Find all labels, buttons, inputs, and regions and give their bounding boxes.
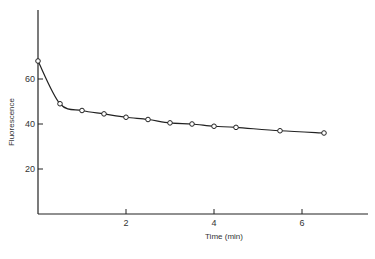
- y-tick-label: 60: [25, 74, 35, 84]
- data-point-marker: [146, 117, 151, 122]
- data-point-marker: [322, 131, 327, 136]
- fluorescence-chart: 204060 246 Fluorescence Time (min): [0, 0, 375, 259]
- x-tick-label: 4: [211, 218, 216, 228]
- data-point-marker: [102, 112, 107, 117]
- data-point-marker: [278, 128, 283, 133]
- data-point-marker: [58, 101, 63, 106]
- y-tick-label: 20: [25, 164, 35, 174]
- data-point-marker: [168, 121, 173, 126]
- y-axis-title: Fluorescence: [7, 97, 16, 146]
- data-point-marker: [212, 124, 217, 129]
- x-tick-label: 6: [299, 218, 304, 228]
- x-axis-title: Time (min): [205, 232, 243, 241]
- data-point-marker: [36, 59, 41, 64]
- data-point-marker: [234, 125, 239, 130]
- x-ticks: 246: [123, 209, 304, 228]
- y-tick-label: 40: [25, 119, 35, 129]
- data-point-marker: [190, 122, 195, 127]
- data-point-marker: [124, 115, 129, 120]
- x-tick-label: 2: [123, 218, 128, 228]
- data-curve: [38, 61, 324, 133]
- y-ticks: 204060: [25, 74, 43, 174]
- data-point-marker: [80, 108, 85, 113]
